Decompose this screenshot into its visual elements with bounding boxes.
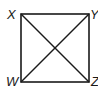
- vertex-label-y: Y: [90, 7, 98, 22]
- vertex-label-w: W: [6, 74, 20, 87]
- square-diagram: X Y W Z: [0, 0, 98, 87]
- vertex-label-x: X: [6, 7, 17, 22]
- vertex-label-z: Z: [90, 74, 98, 87]
